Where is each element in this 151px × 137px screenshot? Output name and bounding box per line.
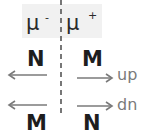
row-up-label: up xyxy=(117,67,137,83)
arrow-left-up xyxy=(9,71,47,79)
arrow-right-dn xyxy=(77,102,112,110)
arrow-left-dn xyxy=(9,101,47,109)
row-dn-right-label: N xyxy=(83,113,101,134)
row-up-right-label: M xyxy=(82,49,103,70)
arrow-right-up xyxy=(77,74,112,82)
row-dn-label: dn xyxy=(117,97,137,113)
row-dn-left-label: M xyxy=(26,113,47,134)
row-up-left-label: N xyxy=(27,49,45,70)
